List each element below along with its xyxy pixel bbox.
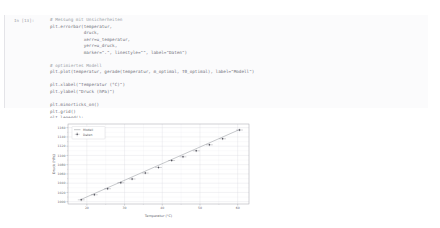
legend-label: Daten	[83, 133, 92, 137]
y-tick-label: 1140	[58, 135, 66, 139]
y-tick-label: 1100	[58, 154, 66, 158]
code-cell[interactable]: In [13]: # Messung mit Unsicherheitenplt…	[4, 15, 428, 108]
figure-output: 2030405060100010201040106010801100112011…	[41, 118, 255, 224]
data-point	[195, 150, 197, 152]
data-point	[209, 144, 211, 146]
y-tick-label: 1120	[58, 144, 66, 148]
data-point	[80, 199, 82, 201]
data-point	[171, 160, 173, 162]
data-point	[182, 156, 184, 158]
data-point	[158, 167, 160, 169]
y-tick-label: 1000	[58, 200, 66, 204]
data-point	[131, 178, 133, 180]
data-point	[120, 182, 122, 184]
data-point	[145, 172, 147, 174]
notebook-container: In [13]: # Messung mit Unsicherheitenplt…	[0, 0, 440, 228]
x-axis-title: Temperatur (°C)	[144, 214, 173, 218]
y-tick-label: 1020	[58, 191, 66, 195]
y-tick-label: 1060	[58, 172, 66, 176]
x-tick-label: 40	[160, 206, 164, 210]
x-tick-label: 60	[236, 206, 240, 210]
data-point	[222, 138, 224, 140]
legend-swatch-marker	[76, 134, 78, 136]
plot-legend: ModellDaten	[72, 127, 105, 140]
x-tick-label: 30	[123, 206, 127, 210]
x-tick-label: 20	[85, 206, 89, 210]
cell-execution-prompt: In [13]:	[14, 18, 48, 25]
x-tick-label: 50	[198, 206, 202, 210]
y-tick-label: 1160	[58, 126, 66, 130]
code-cell-row: In [13]: # Messung mit Unsicherheitenplt…	[5, 15, 428, 108]
data-point	[94, 194, 96, 196]
y-tick-label: 1080	[58, 163, 66, 167]
data-point	[239, 129, 241, 131]
data-point	[107, 188, 109, 190]
code-editor-area[interactable]: # Messung mit Unsicherheitenplt.errorbar…	[50, 17, 426, 122]
y-axis-title: Druck (hPa)	[52, 153, 56, 174]
matplotlib-figure: 2030405060100010201040106010801100112011…	[41, 118, 255, 224]
legend-label: Modell	[83, 128, 93, 132]
y-tick-label: 1040	[58, 181, 66, 185]
